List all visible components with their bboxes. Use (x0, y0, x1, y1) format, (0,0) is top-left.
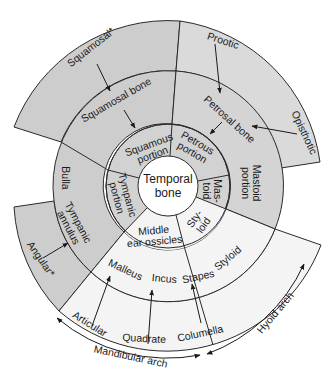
label-mastoid-portion-2: portion (240, 167, 252, 199)
label-quadrate: Quadrate (122, 331, 167, 345)
center-label-line2: bone (155, 186, 182, 200)
center-label-line1: Temporal (143, 172, 192, 186)
temporal-bone-diagram: Temporal bone Squamous portion Petrous p… (0, 0, 334, 373)
label-bulla: Bulla (60, 166, 72, 190)
label-mastoid-2: toid (201, 183, 213, 200)
label-incus: Incus (151, 271, 177, 285)
